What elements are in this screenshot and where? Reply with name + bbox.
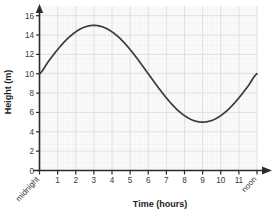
x-tick-label: 5 — [128, 176, 133, 185]
y-tick-label: 8 — [29, 89, 34, 98]
x-axis-title: Time (hours) — [133, 199, 187, 209]
y-tick-label: 10 — [25, 70, 35, 79]
chart-canvas: 0246810121416 midnight1234567891011noon … — [0, 0, 279, 216]
y-tick-label: 0 — [29, 167, 34, 176]
tide-height-chart: 0246810121416 midnight1234567891011noon … — [0, 0, 279, 216]
x-tick-label: 1 — [55, 176, 60, 185]
x-tick-label: 7 — [164, 176, 169, 185]
y-tick-label: 6 — [29, 108, 34, 117]
y-tick-label: 4 — [29, 128, 34, 137]
y-tick-label: 2 — [29, 147, 34, 156]
x-tick-label: 9 — [200, 176, 205, 185]
y-tick-label: 16 — [25, 12, 35, 21]
x-tick-label: 2 — [73, 176, 78, 185]
x-tick-label: 8 — [182, 176, 187, 185]
y-tick-label: 14 — [25, 31, 35, 40]
y-axis-tick-labels: 0246810121416 — [25, 12, 35, 176]
y-axis-title: Height (m) — [3, 70, 13, 115]
y-tick-label: 12 — [25, 50, 35, 59]
x-axis-arrow-icon — [262, 167, 272, 175]
x-tick-label: midnight — [14, 174, 41, 203]
x-tick-label: 11 — [235, 176, 244, 185]
x-tick-label: 3 — [92, 176, 97, 185]
x-tick-label: 10 — [216, 176, 226, 185]
x-tick-label: 6 — [146, 176, 151, 185]
x-tick-label: 4 — [110, 176, 115, 185]
